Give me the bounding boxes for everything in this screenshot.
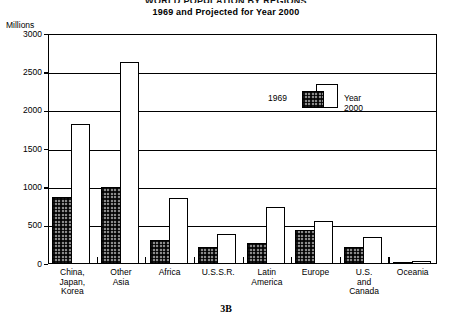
figure-caption: 3B (0, 303, 452, 314)
gridline (49, 150, 436, 151)
y-axis-tick-mark (44, 34, 48, 35)
y-axis-tick-mark (44, 187, 48, 188)
y-axis-tick-label: 1000 (2, 182, 42, 192)
x-axis-category-label: U.S.S.R. (192, 268, 245, 278)
bar-year-2000 (71, 124, 90, 264)
bar-1969 (295, 230, 315, 265)
gridline (49, 73, 436, 74)
y-axis-tick-label: 3000 (2, 29, 42, 39)
x-axis-category-label: Oceania (386, 268, 439, 278)
bar-year-2000 (169, 198, 188, 264)
y-axis-tick-mark (44, 264, 48, 265)
bar-year-2000 (120, 62, 139, 264)
bar-1969 (198, 247, 218, 264)
chart-subtitle: 1969 and Projected for Year 2000 (0, 7, 452, 17)
bar-1969 (52, 197, 72, 264)
x-axis-tick-mark (291, 257, 292, 264)
bar-1969 (150, 240, 170, 264)
x-axis-tick-mark (388, 257, 389, 264)
bar-year-2000 (363, 237, 382, 264)
x-axis-category-label: Europe (289, 268, 342, 278)
gridline (49, 111, 436, 112)
x-axis-tick-mark (340, 257, 341, 264)
y-axis-tick-label: 500 (2, 220, 42, 230)
bar-year-2000 (412, 261, 431, 264)
x-axis-category-label: Other Asia (95, 268, 148, 287)
y-axis-tick-label: 0 (2, 259, 42, 269)
legend-swatch-1969 (302, 91, 324, 108)
chart-title: WORLD POPULATION BY REGIONS (0, 0, 452, 3)
y-axis-tick-label: 1500 (2, 144, 42, 154)
y-axis-tick-label: 2000 (2, 105, 42, 115)
x-axis-category-label: U.S. and Canada (338, 268, 391, 297)
bar-1969 (344, 247, 364, 264)
x-axis-tick-mark (145, 257, 146, 264)
y-axis-tick-mark (44, 72, 48, 73)
x-axis-category-label: China, Japan, Korea (46, 268, 99, 297)
y-axis-tick-mark (44, 149, 48, 150)
x-axis-tick-mark (194, 257, 195, 264)
bar-1969 (247, 243, 267, 264)
bar-1969 (101, 187, 121, 264)
y-axis-tick-mark (44, 226, 48, 227)
bar-year-2000 (217, 234, 236, 264)
bar-1969 (393, 262, 413, 264)
legend-label-year-2000: Year 2000 (344, 93, 363, 113)
y-axis-tick-mark (44, 111, 48, 112)
x-axis-category-label: Africa (143, 268, 196, 278)
x-axis-tick-mark (97, 257, 98, 264)
y-axis-tick-label: 2500 (2, 67, 42, 77)
legend-label-1969: 1969 (268, 93, 287, 103)
chart-page: WORLD POPULATION BY REGIONS 1969 and Pro… (0, 0, 452, 324)
bar-year-2000 (266, 207, 285, 264)
bar-year-2000 (314, 221, 333, 264)
x-axis-tick-mark (243, 257, 244, 264)
x-axis-category-label: Latin America (241, 268, 294, 287)
